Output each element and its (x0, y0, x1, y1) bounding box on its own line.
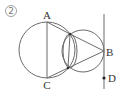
problem-number: 2 (8, 6, 14, 16)
segment-c-q (47, 68, 68, 78)
point-p (69, 33, 72, 36)
label-b: B (106, 46, 113, 58)
segment-p-q (68, 34, 70, 68)
point-d (102, 76, 105, 79)
label-a: A (43, 9, 51, 21)
point-q (67, 67, 70, 70)
label-c: C (43, 79, 50, 91)
segment-a-p (47, 22, 70, 34)
geometry-figure: 2 A B C D (0, 0, 124, 93)
label-d: D (108, 72, 116, 84)
